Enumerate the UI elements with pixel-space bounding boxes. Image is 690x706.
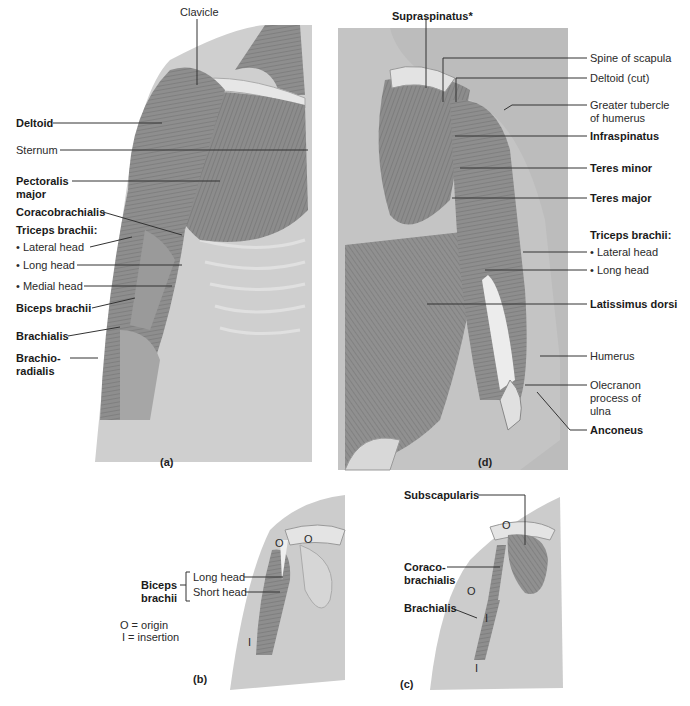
label-biceps-b-line2: brachii [141, 592, 177, 604]
panel-letter-d: (d) [478, 456, 492, 468]
label-teres-minor: Teres minor [590, 162, 652, 175]
label-short-head-b: Short head [193, 586, 247, 599]
insertion-mark-c2: I [475, 662, 478, 675]
origin-mark-c1: O [502, 519, 511, 532]
label-triceps-brachii-a: Triceps brachii: [16, 224, 97, 237]
label-infraspinatus: Infraspinatus [590, 130, 659, 143]
label-pectoralis-line1: Pectoralis [16, 175, 69, 187]
label-olecranon: Olecranonprocess ofulna [590, 379, 641, 418]
origin-mark-b2: O [304, 533, 313, 546]
label-medial-head-a: • Medial head [16, 280, 83, 293]
label-long-head-b: Long head [193, 571, 245, 584]
panel-c-art [430, 497, 563, 690]
label-brachioradialis-line2: radialis [16, 365, 55, 377]
label-pectoralis-line2: major [16, 188, 46, 200]
label-long-head-d: • Long head [590, 264, 649, 277]
origin-mark-b1: O [275, 537, 284, 550]
label-biceps-b-line1: Biceps [141, 579, 177, 591]
label-coracobrachialis: Coracobrachialis [16, 206, 105, 219]
label-long-head-a: • Long head [16, 259, 75, 272]
label-insertion-key: I = insertion [122, 631, 179, 644]
panel-letter-c: (c) [400, 678, 413, 690]
label-latissimus-dorsi: Latissimus dorsi [590, 298, 677, 311]
panel-d-art [338, 28, 568, 470]
label-greater-tubercle: Greater tubercleof humerus [590, 99, 669, 125]
label-brachioradialis: Brachio-radialis [16, 352, 61, 378]
label-greater-tubercle-line1: Greater tubercle [590, 99, 669, 111]
panel-a-art [95, 25, 312, 462]
insertion-mark-b: I [248, 636, 251, 649]
label-greater-tubercle-line2: of humerus [590, 112, 645, 124]
anatomy-illustration [0, 0, 690, 706]
label-teres-major: Teres major [590, 192, 652, 205]
origin-mark-c2: O [467, 585, 476, 598]
label-coracobrachialis-c: Coraco-brachialis [404, 561, 455, 587]
label-olecranon-line1: Olecranon [590, 379, 641, 391]
label-brachioradialis-line1: Brachio- [16, 352, 61, 364]
label-coraco-line2: brachialis [404, 574, 455, 586]
label-clavicle: Clavicle [180, 6, 219, 19]
label-olecranon-line2: process of [590, 392, 641, 404]
panel-letter-a: (a) [160, 456, 173, 468]
label-coraco-line1: Coraco- [404, 561, 446, 573]
label-pectoralis-major: Pectoralismajor [16, 175, 69, 201]
label-biceps-brachii-a: Biceps brachii [16, 302, 91, 315]
panel-letter-b: (b) [193, 673, 207, 685]
label-olecranon-line3: ulna [590, 405, 611, 417]
label-brachialis-c: Brachialis [404, 602, 457, 615]
label-lateral-head-d: • Lateral head [590, 246, 658, 259]
label-humerus: Humerus [590, 350, 635, 363]
label-subscapularis: Subscapularis [404, 489, 479, 502]
label-biceps-brachii-b: Bicepsbrachii [141, 579, 177, 605]
label-brachialis-a: Brachialis [16, 330, 69, 343]
label-deltoid: Deltoid [16, 117, 53, 130]
label-supraspinatus: Supraspinatus* [392, 10, 473, 23]
label-lateral-head-a: • Lateral head [16, 241, 84, 254]
label-sternum: Sternum [16, 144, 58, 157]
insertion-mark-c1: I [485, 612, 488, 625]
label-spine-of-scapula: Spine of scapula [590, 52, 671, 65]
label-anconeus: Anconeus [590, 424, 643, 437]
label-deltoid-cut: Deltoid (cut) [590, 72, 649, 85]
label-triceps-brachii-d: Triceps brachii: [590, 229, 671, 242]
